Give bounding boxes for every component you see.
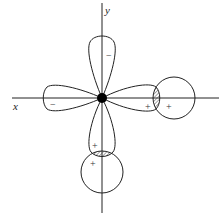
sign-bottom-circle: + [90,158,96,169]
orbital-overlap-diagram: x y − − + + + + [0,0,223,218]
sign-bottom-lobe: + [92,140,98,151]
nucleus-dot [97,93,107,103]
sign-right-lobe: + [145,101,151,112]
sign-top-lobe: − [106,50,112,61]
x-axis-label: x [12,100,18,112]
y-axis-label: y [104,4,110,16]
sign-right-circle: + [166,101,172,112]
sign-left-lobe: − [50,99,56,110]
